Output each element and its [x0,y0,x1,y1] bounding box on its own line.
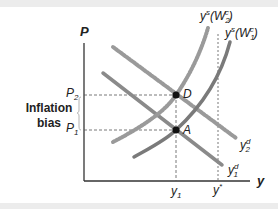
inflation-bias-label: Inflation bias [18,101,80,131]
point-a-label: A [183,124,191,136]
s1-close: ) [254,26,258,40]
demand-2-label: yd2 [240,138,250,154]
point-d [172,91,179,98]
ystar-sup: * [219,182,222,191]
x-axis-label: y [257,174,264,187]
y1-sub: 1 [177,191,181,200]
point-a [172,126,179,133]
s2-close: ) [229,9,233,23]
demand-curve-1 [103,73,222,165]
supply-w2-label: ys(W2c) [200,9,233,25]
demand-1-label: yd1 [228,163,238,179]
d2-sub: 2 [245,145,249,154]
inflation-bias-line1: Inflation [18,101,80,116]
ystar-label: y* [213,183,222,196]
s1-arg: (W [235,26,250,40]
y1-label: y1 [171,185,181,200]
s2-arg: (W [210,9,225,23]
p2-main: P [66,86,74,100]
supply-curve-w2 [113,28,208,142]
supply-w1-label: ys(W1c) [225,26,258,42]
d1-sub: 1 [233,170,237,179]
point-d-label: D [183,88,192,100]
inflation-bias-line2: bias [18,116,80,131]
y-axis-label: P [80,25,89,38]
